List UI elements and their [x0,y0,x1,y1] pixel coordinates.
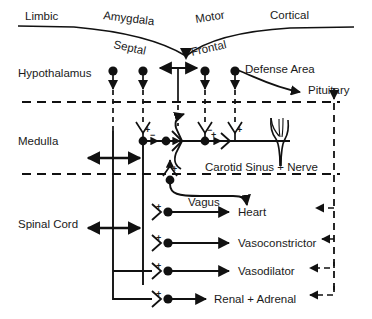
medulla-sign-2: − [150,130,155,140]
label-frontal: Frontal [190,38,228,58]
soma-dot [108,66,117,75]
medulla-synapse-5: + [210,130,230,149]
medulla-sign-6: + [237,125,242,135]
label-hypothalamus: Hypothalamus [18,67,92,79]
label-septal: Septal [113,38,147,57]
label-medulla: Medulla [18,135,59,147]
bus-branch-renal [310,286,334,295]
medulla-synapse-2: − [148,130,170,145]
label-cortical: Cortical [270,9,309,21]
label-renal-adrenal: Renal + Adrenal [214,293,296,305]
efferent-row-vasoconstrictor: + Vasoconstrictor [152,233,317,251]
label-pituitary: Pituitary [308,84,350,96]
heart-sign: + [156,202,161,212]
label-motor: Motor [194,8,225,24]
vagus-group: Vagus [170,184,247,208]
diagram-canvas: Limbic Amygdala Motor Cortical Septal Fr… [0,0,372,319]
efferent-row-renal-adrenal: + Renal + Adrenal [113,289,296,307]
label-heart: Heart [238,206,267,218]
hypothalamic-neuron-2 [138,66,147,122]
hypothalamic-neuron-1 [108,66,117,131]
soma-dot [166,176,175,185]
region-labels: Hypothalamus Medulla Spinal Cord [18,67,92,230]
carotid-sinus-group: Carotid Sinus + Nerve [205,118,318,173]
hypothalamic-neurons [108,66,239,131]
soma-dot [201,137,210,146]
baroreceptor-sign: + [172,164,177,174]
baroreceptor-afferent: + [163,160,177,184]
soma-dot [200,66,209,75]
top-curve-labels: Limbic Amygdala Motor Cortical Septal Fr… [25,8,309,57]
afferent-feedback-bus [310,88,334,295]
hypothalamic-neuron-3 [200,66,209,122]
carotid-vessel-inner [279,118,283,137]
label-vasodilator: Vasodilator [238,265,295,277]
label-limbic: Limbic [25,10,58,22]
cortex-curve-group [18,26,354,60]
vasodilator-sign: + [156,261,161,271]
label-vagus: Vagus [188,196,220,208]
label-spinal-cord: Spinal Cord [18,218,78,230]
label-amygdala: Amygdala [103,9,156,27]
neural-control-diagram: Limbic Amygdala Motor Cortical Septal Fr… [0,0,372,319]
renal-sign: + [156,289,161,299]
efferent-rows: + Heart + Vasoconstrictor + Vasodilator [88,202,317,307]
efferent-row-vasodilator: + Vasodilator [113,261,295,279]
soma-dot [139,137,148,146]
soma-dot [138,66,147,75]
label-vasoconstrictor: Vasoconstrictor [238,237,317,249]
medulla-synapse-6: + [228,122,242,141]
defense-area-group: Defense Area Pituitary [237,63,350,96]
label-carotid-sinus: Carotid Sinus + Nerve [205,161,318,173]
medulla-sign-5: + [211,130,216,140]
vasoconstrictor-sign: + [156,233,161,243]
bus-branch-vasodilator [310,262,334,268]
hypothalamic-neuron-4-defense [230,66,239,122]
label-defense-area: Defense Area [245,63,315,75]
